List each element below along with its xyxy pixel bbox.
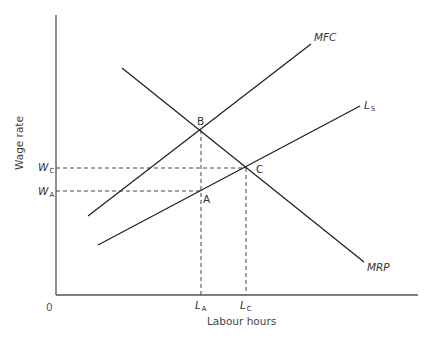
origin-label: 0 (46, 302, 53, 313)
mrp-label: MRP (367, 262, 390, 273)
mfc-label: MFC (314, 32, 336, 43)
lc-label: LC (240, 300, 252, 313)
point-b-label: B (197, 116, 204, 127)
point-a-label: A (203, 194, 210, 205)
x-axis-title: Labour hours (207, 316, 276, 327)
y-axis-title: Wage rate (13, 116, 25, 170)
point-c-label: C (256, 164, 263, 175)
wa-label: WA (38, 186, 54, 199)
chart-canvas (0, 0, 437, 341)
ls-label: LS (364, 100, 375, 113)
wc-label: WC (38, 162, 54, 175)
la-label: LA (195, 300, 207, 313)
ls-line (98, 106, 360, 245)
